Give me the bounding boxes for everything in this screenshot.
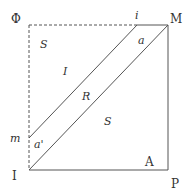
label-R: R <box>81 90 90 103</box>
label-M: M <box>170 12 182 26</box>
main-diagonal-line <box>29 25 168 170</box>
label-A: A <box>144 155 154 169</box>
label-P: P <box>171 177 179 191</box>
label-I-region: I <box>62 65 68 78</box>
label-m: m <box>10 132 20 145</box>
label-S-top: S <box>40 38 48 51</box>
label-i: i <box>135 9 139 22</box>
label-S-bottom: S <box>104 115 112 128</box>
label-phi: Φ <box>11 12 21 26</box>
square-diagram: Φ M I P i m S I R S a a' A <box>0 0 191 192</box>
label-a: a <box>138 34 145 47</box>
label-a-prime: a' <box>34 138 44 151</box>
label-I-corner: I <box>12 169 17 183</box>
diagram-lines <box>29 25 168 170</box>
